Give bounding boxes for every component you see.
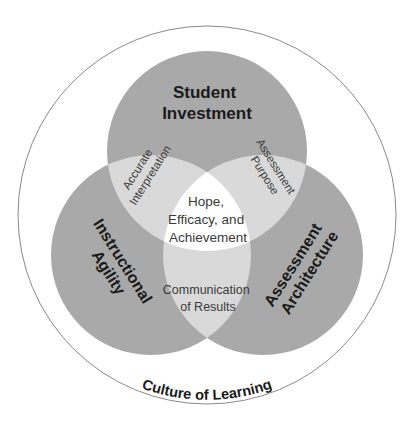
label-culture-of-learning: Culture of Learning xyxy=(140,376,273,403)
label-communication: Communication xyxy=(163,283,250,297)
culture-text-path: Culture of Learning xyxy=(140,376,273,403)
label-hope: Hope, xyxy=(188,194,224,209)
label-of-results: of Results xyxy=(180,300,236,314)
label-investment: Investment xyxy=(162,104,252,123)
label-student: Student xyxy=(173,83,237,102)
venn-diagram: Student Investment Accurate Interpretati… xyxy=(0,0,411,424)
label-achievement: Achievement xyxy=(169,230,247,245)
label-efficacy: Efficacy, and xyxy=(168,212,244,227)
